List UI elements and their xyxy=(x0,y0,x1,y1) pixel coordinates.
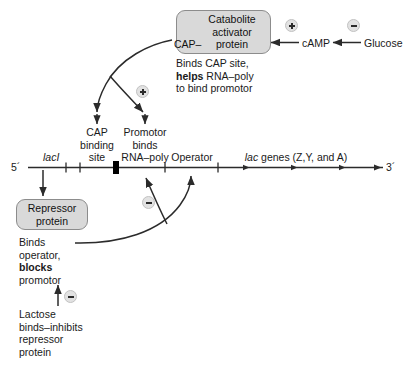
promotor-label-line3: RNA–poly xyxy=(119,151,171,164)
cap-site-label-line1: CAP xyxy=(72,126,122,139)
repressor-negative-badge xyxy=(142,196,155,209)
cap-note-line2-bold: helps xyxy=(176,70,203,82)
camp-positive-badge xyxy=(285,19,298,32)
promoter-block xyxy=(113,161,119,174)
repressor-note-line3: blocks xyxy=(19,261,52,274)
repressor-note-line2: operator, xyxy=(19,249,60,262)
camp-label: cAMP xyxy=(302,37,330,50)
cap-box-line2: activator xyxy=(196,26,268,39)
glucose-label: Glucose xyxy=(364,37,403,50)
diagram-vector-layer xyxy=(0,0,409,373)
promotor-label-line2: binds xyxy=(119,139,171,152)
lactose-note-line4: protein xyxy=(19,346,51,359)
lac-gene-arrow-2 xyxy=(291,165,298,170)
cap-note-line3: to bind promotor xyxy=(176,82,252,95)
repressor-note-line4: promotor xyxy=(19,274,61,287)
lac-gene-arrow-3 xyxy=(339,165,346,170)
cap-activation-curve-main xyxy=(97,40,172,112)
laci-label: lacI xyxy=(43,151,59,164)
repressor-box-line1: Repressor xyxy=(16,202,88,215)
five-prime-label: 5´ xyxy=(11,161,20,173)
lac-gene-arrow-1 xyxy=(243,165,250,170)
cap-note-line1: Binds CAP site, xyxy=(176,57,249,70)
three-prime-label: 3´ xyxy=(386,161,395,173)
repressor-box-line2: protein xyxy=(16,215,88,228)
lac-genes-label: lac genes (Z,Y, and A) xyxy=(226,151,366,164)
repressor-note-line1: Binds xyxy=(19,236,45,249)
lac-operon-diagram: Catabolite activator protein CAP– Binds … xyxy=(0,0,409,373)
cap-activation-positive-badge xyxy=(136,85,149,98)
promotor-label-line1: Promotor xyxy=(119,126,171,139)
cap-note-line2-rest: RNA–poly xyxy=(203,70,253,82)
repressor-action-curve-main xyxy=(75,176,191,243)
lac-genes-label-italic: lac xyxy=(245,151,258,163)
cap-box-line1: Catabolite xyxy=(196,13,268,26)
cap-box-prefix: CAP– xyxy=(174,38,208,51)
cap-note-line2: helps RNA–poly xyxy=(176,70,254,83)
lac-genes-label-rest: genes (Z,Y, and A) xyxy=(258,151,347,163)
operator-label: Operator xyxy=(168,151,216,164)
lactose-negative-badge xyxy=(64,290,77,303)
lactose-note-line3: repressor xyxy=(19,333,63,346)
lactose-note-line1: Lactose xyxy=(19,308,56,321)
glucose-negative-badge xyxy=(347,19,360,32)
dna-end-arrow xyxy=(374,164,382,170)
lactose-note-line2: binds–inhibits xyxy=(19,321,83,334)
cap-site-label-line2: binding xyxy=(72,139,122,152)
